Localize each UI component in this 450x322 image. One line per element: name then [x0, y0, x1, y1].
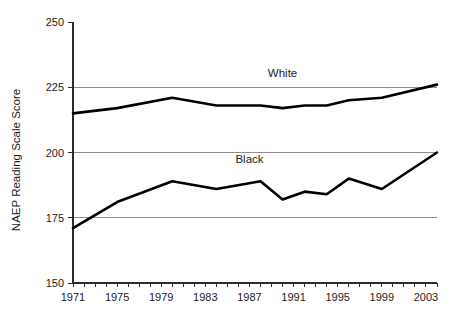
x-tick-label-1979: 1979: [149, 291, 173, 303]
y-tick-label-175: 175: [46, 212, 64, 224]
y-axis-tick-labels: 150175200225250: [46, 16, 73, 289]
y-axis-title-group: NAEP Reading Scale Score: [10, 89, 22, 231]
series-annotation-labels: WhiteBlack: [235, 67, 297, 165]
y-tick-label-150: 150: [46, 277, 64, 289]
y-tick-label-250: 250: [46, 16, 64, 28]
series-label-black: Black: [235, 153, 263, 165]
x-tick-label-1999: 1999: [370, 291, 394, 303]
y-tick-label-200: 200: [46, 147, 64, 159]
x-tick-label-1971: 1971: [61, 291, 85, 303]
chart-canvas: 150175200225250 197119751979198319871991…: [0, 0, 450, 322]
x-tick-label-2003: 2003: [414, 291, 438, 303]
x-tick-label-1991: 1991: [281, 291, 305, 303]
y-tick-label-225: 225: [46, 81, 64, 93]
x-tick-label-1975: 1975: [105, 291, 129, 303]
series-line-white: [73, 85, 437, 114]
x-tick-label-1995: 1995: [325, 291, 349, 303]
y-axis-title: NAEP Reading Scale Score: [10, 89, 22, 231]
naep-reading-line-chart: 150175200225250 197119751979198319871991…: [0, 0, 450, 322]
x-axis-tick-labels: 197119751979198319871991199519992003: [61, 291, 438, 303]
series-label-white: White: [268, 67, 297, 79]
x-tick-label-1983: 1983: [193, 291, 217, 303]
x-tick-label-1987: 1987: [237, 291, 261, 303]
